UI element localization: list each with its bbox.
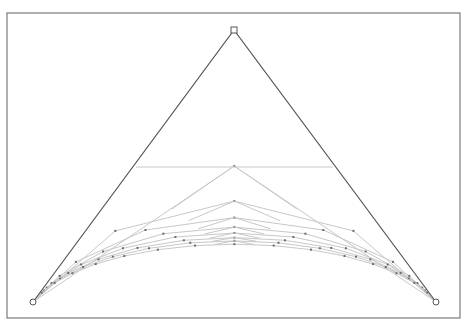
subdivision-link xyxy=(234,166,296,209)
construction-point xyxy=(54,282,56,284)
construction-point xyxy=(98,258,100,260)
construction-point xyxy=(95,263,97,265)
construction-lines xyxy=(33,165,436,302)
construction-point xyxy=(365,250,367,252)
construction-point xyxy=(310,249,312,251)
construction-point xyxy=(137,247,139,249)
construction-point xyxy=(114,230,116,232)
construction-point xyxy=(369,258,371,260)
construction-point xyxy=(174,236,176,238)
construction-point xyxy=(408,275,410,277)
construction-point xyxy=(102,250,104,252)
construction-point xyxy=(112,256,114,258)
construction-point xyxy=(273,245,275,247)
construction-point xyxy=(157,249,159,251)
construction-point xyxy=(162,233,164,235)
construction-row-6 xyxy=(33,238,436,302)
construction-point xyxy=(413,282,415,284)
construction-point xyxy=(385,266,387,268)
control-point-p1-square-icon[interactable] xyxy=(231,27,237,33)
construction-point xyxy=(304,233,306,235)
construction-point xyxy=(123,255,125,257)
construction-point xyxy=(278,242,280,244)
control-point-p0-circle-icon[interactable] xyxy=(30,299,36,305)
construction-point xyxy=(71,272,73,274)
construction-point xyxy=(387,263,389,265)
construction-point xyxy=(80,263,82,265)
construction-point xyxy=(144,229,146,231)
construction-point xyxy=(189,242,191,244)
construction-point xyxy=(59,275,61,277)
construction-point xyxy=(319,247,321,249)
construction-row-8 xyxy=(33,244,436,302)
bezier-diagram xyxy=(0,0,470,325)
construction-point xyxy=(322,229,324,231)
subdivision-link xyxy=(198,218,234,229)
construction-point xyxy=(355,256,357,258)
subdivision-link xyxy=(172,166,234,209)
construction-point xyxy=(372,263,374,265)
construction-point xyxy=(292,236,294,238)
construction-point xyxy=(392,261,394,263)
construction-point xyxy=(183,239,185,241)
diagram-canvas xyxy=(0,0,470,325)
construction-row-1 xyxy=(33,166,436,302)
control-point-p2-circle-icon[interactable] xyxy=(433,299,439,305)
construction-point xyxy=(344,255,346,257)
construction-point xyxy=(75,261,77,263)
construction-point xyxy=(82,266,84,268)
construction-point xyxy=(122,247,124,249)
construction-point xyxy=(233,243,235,245)
construction-point xyxy=(284,239,286,241)
construction-point xyxy=(330,247,332,249)
construction-point xyxy=(345,247,347,249)
construction-point xyxy=(148,247,150,249)
construction-row-2 xyxy=(33,201,436,302)
construction-point xyxy=(395,272,397,274)
construction-point xyxy=(194,245,196,247)
construction-point xyxy=(352,230,354,232)
